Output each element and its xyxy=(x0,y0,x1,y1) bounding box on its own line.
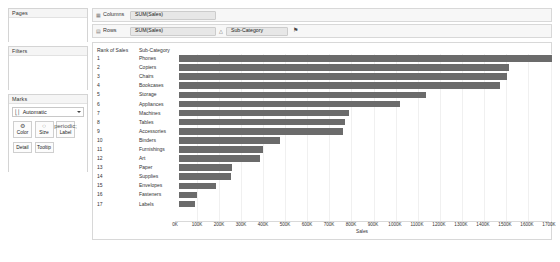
bar-mark[interactable] xyxy=(179,92,426,99)
table-row[interactable]: 4Bookcases xyxy=(93,81,551,90)
cell-bar xyxy=(179,136,551,145)
cell-sub-category: Paper xyxy=(139,165,179,170)
pages-dropzone[interactable] xyxy=(9,17,87,43)
table-row[interactable]: 7Machines xyxy=(93,109,551,118)
bar-mark[interactable] xyxy=(179,64,509,71)
x-axis-title: Sales xyxy=(175,230,549,235)
cell-bar xyxy=(179,81,551,90)
table-row[interactable]: 5Storage xyxy=(93,90,551,99)
cell-rank: 9 xyxy=(93,129,139,134)
cell-bar xyxy=(179,54,551,63)
table-row[interactable]: 9Accessories xyxy=(93,127,551,136)
marks-button-row-1: ⚙ Color ◌ Size periodic; Label xyxy=(9,117,87,138)
cell-bar xyxy=(179,145,551,154)
detail-button[interactable]: Detail xyxy=(13,142,32,153)
x-axis-tick-label: 100K xyxy=(192,223,203,228)
x-axis-tick-label: 1700K xyxy=(542,223,555,228)
bar-rows-container: 1Phones2Copiers3Chairs4Bookcases5Storage… xyxy=(93,54,551,209)
left-shelf-column: Pages Filters Marks ⎣⎢ Automatic ⚙ Color xyxy=(8,8,88,240)
cell-bar xyxy=(179,109,551,118)
table-row[interactable]: 2Copiers xyxy=(93,63,551,72)
tableau-worksheet: Pages Filters Marks ⎣⎢ Automatic ⚙ Color xyxy=(8,8,552,248)
pill-columns-sum-sales[interactable]: SUM(Sales) xyxy=(130,11,216,20)
bar-mark[interactable] xyxy=(179,101,400,108)
detail-button-label: Detail xyxy=(16,145,28,151)
bar-mark[interactable] xyxy=(179,164,232,171)
x-axis-tick-label: 1400K xyxy=(476,223,489,228)
table-row[interactable]: 12Art xyxy=(93,154,551,163)
bar-mark[interactable] xyxy=(179,155,260,162)
table-row[interactable]: 16Fasteners xyxy=(93,190,551,199)
chevron-down-icon xyxy=(77,111,81,113)
table-row[interactable]: 11Furnishings xyxy=(93,145,551,154)
cell-sub-category: Accessories xyxy=(139,129,179,134)
rows-label-text: Rows xyxy=(103,28,116,33)
table-row[interactable]: 6Appliances xyxy=(93,99,551,108)
filter-flag-icon[interactable]: ⚑ xyxy=(293,28,298,34)
x-axis-tick-label: 1000K xyxy=(388,223,401,228)
x-axis-tick-label: 900K xyxy=(368,223,379,228)
size-button[interactable]: ◌ Size xyxy=(35,121,54,138)
x-axis-tick-label: 600K xyxy=(302,223,313,228)
table-row[interactable]: 10Binders xyxy=(93,136,551,145)
bar-mark[interactable] xyxy=(179,137,280,144)
bar-mark[interactable] xyxy=(179,201,195,208)
cell-sub-category: Tables xyxy=(139,120,179,125)
bar-mark[interactable] xyxy=(179,55,552,62)
cell-bar xyxy=(179,127,551,136)
filters-title: Filters xyxy=(9,47,87,55)
bar-mark[interactable] xyxy=(179,119,345,126)
label-icon: periodic; xyxy=(54,123,77,130)
table-row[interactable]: 14Supplies xyxy=(93,172,551,181)
cell-sub-category: Envelopes xyxy=(139,183,179,188)
cell-rank: 15 xyxy=(93,183,139,188)
cell-sub-category: Chairs xyxy=(139,74,179,79)
bar-mark[interactable] xyxy=(179,82,500,89)
x-axis-tick-label: 1300K xyxy=(454,223,467,228)
cell-bar xyxy=(179,172,551,181)
bar-mark[interactable] xyxy=(179,110,349,117)
sort-ascending-icon[interactable]: △ xyxy=(219,29,223,34)
size-button-label: Size xyxy=(39,130,48,136)
rows-shelf[interactable]: ▤ Rows SUM(Sales) △ Sub-Category ⚑ xyxy=(92,24,552,38)
pill-rows-sum-sales[interactable]: SUM(Sales) xyxy=(130,27,216,36)
cell-bar xyxy=(179,181,551,190)
columns-shelf[interactable]: ▦ Columns SUM(Sales) xyxy=(92,8,552,22)
cell-rank: 3 xyxy=(93,74,139,79)
table-row[interactable]: 13Paper xyxy=(93,163,551,172)
cell-sub-category: Binders xyxy=(139,138,179,143)
bar-mark[interactable] xyxy=(179,128,343,135)
cell-rank: 16 xyxy=(93,192,139,197)
bar-mark[interactable] xyxy=(179,192,197,199)
cell-bar xyxy=(179,190,551,199)
cell-sub-category: Appliances xyxy=(139,102,179,107)
mark-type-dropdown[interactable]: ⎣⎢ Automatic xyxy=(12,107,84,117)
columns-label-text: Columns xyxy=(103,12,124,17)
cell-rank: 8 xyxy=(93,120,139,125)
cell-rank: 4 xyxy=(93,83,139,88)
bar-mark[interactable] xyxy=(179,73,507,80)
label-button-label: Label xyxy=(60,130,72,136)
bar-mark[interactable] xyxy=(179,146,263,153)
marks-title: Marks xyxy=(9,95,87,103)
cell-bar xyxy=(179,72,551,81)
filters-dropzone[interactable] xyxy=(9,55,87,91)
bar-mark[interactable] xyxy=(179,173,231,180)
cell-sub-category: Bookcases xyxy=(139,83,179,88)
table-row[interactable]: 17Labels xyxy=(93,200,551,209)
color-palette-icon: ⚙ xyxy=(20,123,25,130)
pill-rows-sub-category[interactable]: Sub-Category xyxy=(226,27,288,36)
bar-mark[interactable] xyxy=(179,183,216,190)
cell-bar xyxy=(179,200,551,209)
table-row[interactable]: 15Envelopes xyxy=(93,181,551,190)
cell-rank: 14 xyxy=(93,174,139,179)
table-row[interactable]: 1Phones xyxy=(93,54,551,63)
cell-rank: 10 xyxy=(93,138,139,143)
color-button[interactable]: ⚙ Color xyxy=(13,121,32,138)
table-row[interactable]: 8Tables xyxy=(93,118,551,127)
visualization-pane: Rank of Sales Sub-Category 1Phones2Copie… xyxy=(92,42,552,240)
tooltip-button[interactable]: Tooltip xyxy=(35,142,54,153)
table-row[interactable]: 3Chairs xyxy=(93,72,551,81)
label-button[interactable]: periodic; Label xyxy=(56,121,75,138)
cell-bar xyxy=(179,118,551,127)
